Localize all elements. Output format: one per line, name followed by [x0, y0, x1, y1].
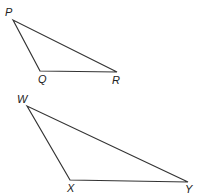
triangle-pqr	[13, 20, 117, 72]
triangle-wxy	[27, 106, 188, 182]
vertex-label-x: X	[66, 182, 75, 194]
vertex-label-w: W	[17, 93, 29, 105]
vertex-label-p: P	[5, 6, 13, 18]
diagram-svg: P Q R W X Y	[0, 0, 199, 194]
triangle-diagram: P Q R W X Y	[0, 0, 199, 194]
vertex-label-r: R	[112, 74, 120, 86]
vertex-label-y: Y	[185, 183, 193, 194]
vertex-label-q: Q	[38, 73, 47, 85]
